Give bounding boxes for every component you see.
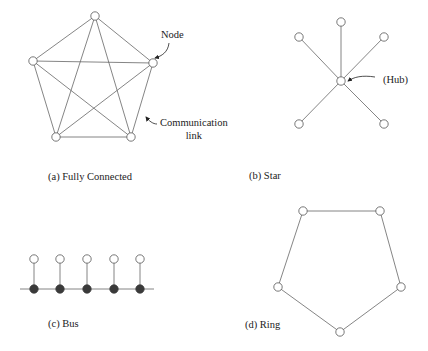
node-circle-icon — [136, 255, 144, 263]
communication-link — [56, 16, 95, 137]
caption-star: (b) Star — [249, 170, 281, 181]
communication-link — [33, 61, 56, 137]
node-circle-icon — [274, 283, 282, 291]
communication-link — [278, 211, 303, 287]
communication-link — [380, 211, 401, 287]
node-circle-icon — [110, 255, 118, 263]
communication-link — [278, 287, 340, 332]
node-circle-icon — [295, 120, 303, 128]
fully-connected-topology — [29, 12, 157, 141]
communication-link-label-line1: Communication — [160, 116, 228, 129]
node-circle-icon — [337, 18, 345, 26]
node-circle-icon — [380, 120, 388, 128]
communication-link — [341, 37, 384, 81]
node-circle-icon — [397, 283, 405, 291]
communication-link — [341, 81, 384, 124]
link-pointer-arrow — [146, 117, 157, 124]
communication-link-label-line2: link — [160, 129, 228, 142]
bus-tap-dot-icon — [56, 285, 64, 293]
node-circle-icon — [380, 33, 388, 41]
communication-link — [95, 16, 131, 137]
communication-link — [56, 63, 153, 137]
bus-tap-dot-icon — [83, 285, 91, 293]
node-circle-icon — [30, 255, 38, 263]
ring-topology — [274, 207, 405, 336]
communication-link — [340, 287, 401, 332]
node-circle-icon — [336, 328, 344, 336]
node-annotation: Node — [161, 28, 184, 41]
communication-link — [33, 61, 153, 63]
communication-link — [131, 63, 153, 137]
node-circle-icon — [56, 255, 64, 263]
star-topology — [295, 18, 388, 128]
hub-pointer-arrow — [348, 76, 375, 81]
node-circle-icon — [127, 133, 135, 141]
node-circle-icon — [376, 207, 384, 215]
communication-link — [33, 16, 95, 61]
caption-ring: (d) Ring — [245, 319, 280, 330]
node-circle-icon — [299, 207, 307, 215]
node-pointer-arrow — [155, 43, 169, 58]
node-circle-icon — [149, 59, 157, 67]
node-circle-icon — [91, 12, 99, 20]
communication-link-annotation: Communication link — [160, 116, 228, 142]
bus-topology — [20, 255, 154, 293]
node-circle-icon — [52, 133, 60, 141]
node-circle-icon — [29, 57, 37, 65]
node-circle-icon — [295, 33, 303, 41]
communication-link — [95, 16, 153, 63]
bus-tap-dot-icon — [110, 285, 118, 293]
node-circle-icon — [83, 255, 91, 263]
hub-annotation: (Hub) — [383, 74, 408, 85]
bus-tap-dot-icon — [30, 285, 38, 293]
bus-tap-dot-icon — [136, 285, 144, 293]
caption-fully-connected: (a) Fully Connected — [48, 171, 132, 182]
caption-bus: (c) Bus — [48, 318, 79, 329]
hub-node-circle-icon — [337, 77, 345, 85]
communication-link — [299, 81, 341, 124]
communication-link — [299, 37, 341, 81]
communication-link — [33, 61, 131, 137]
